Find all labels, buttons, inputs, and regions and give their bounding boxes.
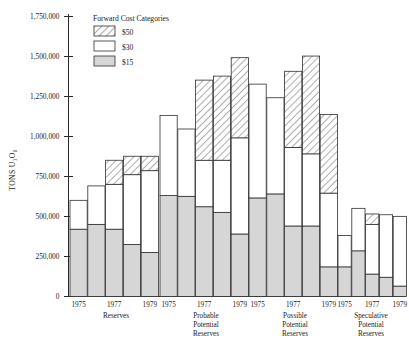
bar-segment-usd30 [302, 154, 319, 226]
y-axis-tick-labels: 0250,000500,000750,0001,000,0001,250,000… [30, 12, 60, 302]
bar-speculative-potential-reserves-1975 [338, 236, 351, 297]
bar-segment-usd30 [352, 208, 365, 250]
legend: Forward Cost Categories $50 $30 $15 [93, 14, 169, 67]
bar-segment-usd50 [302, 56, 319, 154]
year-label-1979: 1979 [393, 301, 408, 309]
year-label-1975: 1975 [71, 301, 86, 309]
bar-segment-usd15 [285, 226, 302, 297]
bar-segment-usd15 [213, 212, 230, 296]
group-label-possible: Possible [283, 312, 307, 320]
bar-segment-usd30 [123, 175, 140, 245]
bar-segment-usd30 [379, 215, 392, 278]
legend-item-15: $15 [94, 56, 134, 67]
year-label-1979: 1979 [233, 301, 248, 309]
bar-segment-usd30 [106, 184, 123, 229]
y-axis-title: TONS U₃O₈ [8, 149, 17, 190]
y-tick-label-0: 0 [56, 292, 60, 301]
year-label-1975: 1975 [337, 301, 352, 309]
year-label-1977: 1977 [286, 301, 301, 309]
bar-speculative-potential-reserves-1977 [366, 214, 379, 297]
bar-speculative-potential-reserves-1978 [379, 215, 392, 297]
y-tick-label-750000: 750,000 [35, 172, 59, 181]
bar-possible-potential-reserves-1978 [302, 56, 319, 296]
y-tick-label-250000: 250,000 [35, 252, 59, 261]
legend-label-15: $15 [122, 58, 134, 67]
group-label-reserves: Reserves [103, 312, 129, 320]
bar-segment-usd30 [160, 115, 177, 195]
bar-segment-usd15 [302, 226, 319, 297]
bar-segment-usd50 [285, 71, 302, 147]
bar-segment-usd30 [88, 186, 105, 224]
bar-speculative-potential-reserves-1979 [393, 216, 406, 296]
bar-segment-usd50 [123, 156, 140, 174]
bar-speculative-potential-reserves-1976 [352, 208, 365, 296]
year-label-1979: 1979 [322, 301, 337, 309]
bar-segment-usd50 [231, 58, 248, 138]
bar-segment-usd30 [320, 193, 337, 267]
bar-segment-usd15 [123, 244, 140, 296]
y-tick-label-1750000: 1,750,000 [30, 12, 60, 21]
bar-segment-usd50 [366, 214, 379, 224]
bar-segment-usd15 [160, 196, 177, 297]
bar-segment-usd30 [231, 138, 248, 234]
bar-segment-usd30 [338, 236, 351, 267]
bar-segment-usd50 [141, 156, 158, 170]
bar-segment-usd30 [393, 216, 406, 286]
bar-segment-usd30 [249, 84, 266, 198]
year-label-1977: 1977 [107, 301, 122, 309]
bar-reserves-1975 [70, 200, 87, 296]
bar-segment-usd15 [178, 196, 195, 296]
bar-segment-usd15 [366, 274, 379, 296]
bar-segment-usd15 [249, 198, 266, 297]
bar-segment-usd30 [267, 98, 284, 194]
y-tick-label-1250000: 1,250,000 [30, 92, 60, 101]
legend-label-30: $30 [122, 43, 134, 52]
x-axis-year-labels: 1975197719791975197719791975197719791975… [71, 301, 407, 309]
year-label-1977: 1977 [197, 301, 212, 309]
bar-reserves-1979 [141, 156, 158, 296]
bar-segment-usd15 [393, 286, 406, 296]
bar-possible-potential-reserves-1977 [285, 71, 302, 296]
legend-title: Forward Cost Categories [93, 14, 169, 23]
chart-container: 0250,000500,000750,0001,000,0001,250,000… [0, 0, 409, 341]
bar-possible-potential-reserves-1975 [249, 84, 266, 296]
legend-item-30: $30 [94, 41, 134, 52]
bar-probable-potential-reserves-1978 [213, 76, 230, 296]
year-label-1977: 1977 [365, 301, 380, 309]
bar-segment-usd30 [213, 160, 230, 212]
bar-segment-usd15 [70, 229, 87, 296]
legend-swatch-15 [94, 56, 115, 66]
bar-segment-usd30 [70, 200, 87, 229]
bar-segment-usd15 [141, 252, 158, 296]
group-label-possible: Potential [282, 321, 308, 329]
bar-reserves-1978 [123, 156, 140, 296]
bar-segment-usd15 [320, 267, 337, 297]
bar-segment-usd15 [88, 224, 105, 296]
bar-reserves-1976 [88, 186, 105, 297]
bar-reserves-1977 [106, 160, 123, 296]
y-tick-label-500000: 500,000 [35, 212, 59, 221]
group-label-speculative: Potential [358, 321, 384, 329]
group-label-possible: Reserves [282, 330, 308, 338]
bar-probable-potential-reserves-1975 [160, 115, 177, 296]
y-tick-label-1000000: 1,000,000 [30, 132, 60, 141]
legend-swatch-50 [94, 26, 115, 36]
y-tick-label-1500000: 1,500,000 [30, 52, 60, 61]
uranium-reserves-stacked-bar-chart: 0250,000500,000750,0001,000,0001,250,000… [0, 0, 409, 341]
bar-segment-usd50 [320, 115, 337, 194]
bar-segment-usd15 [338, 267, 351, 297]
bar-segment-usd15 [106, 229, 123, 296]
year-label-1979: 1979 [143, 301, 158, 309]
bar-segment-usd15 [196, 207, 213, 297]
bar-segment-usd30 [196, 160, 213, 206]
year-label-1975: 1975 [250, 301, 265, 309]
legend-item-50: $50 [94, 26, 134, 37]
group-label-probable: Probable [193, 312, 219, 320]
bar-probable-potential-reserves-1979 [231, 58, 248, 297]
bar-possible-potential-reserves-1979 [320, 115, 337, 297]
bar-segment-usd15 [379, 277, 392, 296]
bar-segment-usd15 [267, 194, 284, 297]
bar-segment-usd30 [285, 147, 302, 226]
x-axis-group-labels: ReservesProbablePotentialReservesPossibl… [103, 312, 388, 338]
group-label-probable: Potential [193, 321, 219, 329]
